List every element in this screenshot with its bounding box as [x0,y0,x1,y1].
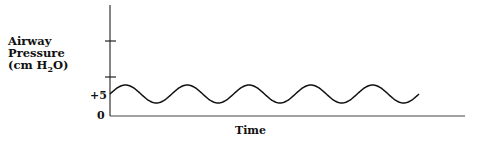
pressure-waveform [110,85,419,103]
chart-plot [0,0,477,145]
